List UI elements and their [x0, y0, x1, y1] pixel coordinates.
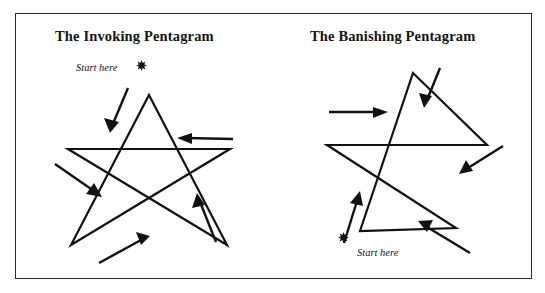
banishing-arrow-up-left-side	[344, 191, 363, 243]
banishing-arrow-right-upper-left	[329, 107, 388, 118]
banishing-arrow-up-left-bottom	[418, 220, 470, 253]
invoking-pentagram-figure	[15, 13, 275, 279]
banishing-pentagram-figure	[275, 13, 535, 279]
invoking-arrow-up-right-bottom	[99, 232, 150, 263]
invoking-arrow-down-left-top	[104, 88, 128, 133]
invoking-pentagram-path	[68, 95, 230, 245]
invoking-arrow-left-upper-right	[177, 133, 233, 144]
invoking-arrow-down-right-left	[55, 164, 102, 197]
page-canvas: The Invoking Pentagram Start here	[0, 0, 545, 293]
banishing-arrow-down-left-right	[459, 146, 503, 174]
banishing-pentagram-path	[327, 73, 487, 231]
